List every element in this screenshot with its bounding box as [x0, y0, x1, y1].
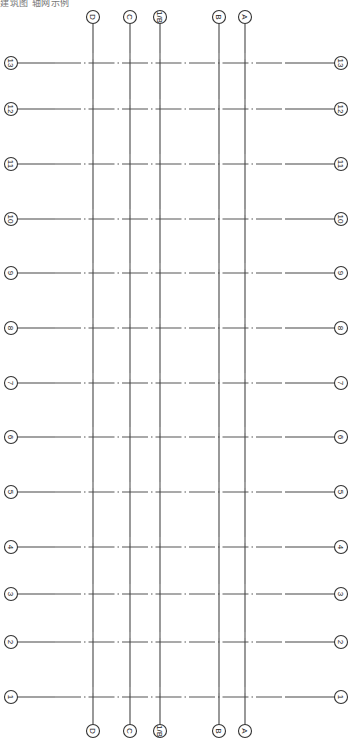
axis-grid-drawing: 1313121211111010998877665544332211DDCC1/… [0, 0, 351, 743]
svg-text:5: 5 [6, 490, 15, 495]
axis-bubble-row-11-right: 11 [335, 158, 348, 171]
svg-text:11: 11 [6, 160, 15, 169]
axis-bubble-col-B-bottom: B [213, 725, 226, 738]
axis-bubble-row-10-right: 10 [335, 213, 348, 226]
svg-text:A: A [240, 14, 249, 20]
axis-bubble-row-6-right: 6 [335, 431, 348, 444]
svg-text:6: 6 [336, 435, 345, 440]
row-axis-1: 11 [5, 691, 348, 704]
column-axis-C: CC [124, 11, 137, 738]
svg-text:C: C [125, 14, 134, 20]
axis-bubble-row-11-left: 11 [5, 158, 18, 171]
svg-text:12: 12 [6, 105, 15, 114]
axis-bubble-row-4-right: 4 [335, 541, 348, 554]
axis-bubble-row-13-right: 13 [335, 57, 348, 70]
axis-bubble-col-C-top: C [124, 11, 137, 24]
axis-bubble-col-B-top: B [213, 11, 226, 24]
svg-text:8: 8 [6, 326, 15, 331]
axis-bubble-row-12-right: 12 [335, 103, 348, 116]
axis-bubble-row-6-left: 6 [5, 431, 18, 444]
axis-bubble-row-8-right: 8 [335, 322, 348, 335]
row-axis-4: 44 [5, 541, 348, 554]
svg-text:D: D [88, 728, 97, 734]
axis-bubble-col-D-top: D [87, 11, 100, 24]
axis-bubble-col-C-bottom: C [124, 725, 137, 738]
svg-text:4: 4 [6, 545, 15, 550]
row-axis-5: 55 [5, 486, 348, 499]
svg-text:10: 10 [336, 215, 345, 224]
column-axis-B: BB [213, 11, 226, 738]
column-axis-1-B: 1/B1/B [154, 11, 167, 738]
svg-text:8: 8 [336, 326, 345, 331]
row-axis-12: 1212 [5, 103, 348, 116]
row-axis-2: 22 [5, 636, 348, 649]
svg-text:6: 6 [6, 435, 15, 440]
column-axis-D: DD [87, 11, 100, 738]
axis-bubble-row-9-right: 9 [335, 267, 348, 280]
row-axis-7: 77 [5, 377, 348, 390]
svg-text:1/B: 1/B [155, 11, 164, 23]
svg-text:1: 1 [6, 695, 15, 700]
axis-bubble-col-1-B-top: 1/B [154, 11, 167, 24]
svg-text:C: C [125, 728, 134, 734]
axis-bubble-row-7-right: 7 [335, 377, 348, 390]
axis-bubble-row-3-left: 3 [5, 588, 18, 601]
row-axis-3: 33 [5, 588, 348, 601]
svg-text:11: 11 [336, 160, 345, 169]
axis-bubble-row-9-left: 9 [5, 267, 18, 280]
svg-text:13: 13 [336, 59, 345, 68]
row-axis-8: 88 [5, 322, 348, 335]
svg-text:D: D [88, 14, 97, 20]
axis-bubble-row-1-right: 1 [335, 691, 348, 704]
axis-bubble-row-8-left: 8 [5, 322, 18, 335]
svg-text:2: 2 [6, 640, 15, 645]
row-axis-9: 99 [5, 267, 348, 280]
svg-text:A: A [240, 728, 249, 734]
svg-text:7: 7 [6, 381, 15, 386]
svg-text:2: 2 [336, 640, 345, 645]
axis-bubble-row-1-left: 1 [5, 691, 18, 704]
svg-text:10: 10 [6, 215, 15, 224]
svg-text:B: B [214, 728, 223, 733]
svg-text:9: 9 [336, 271, 345, 276]
axis-bubble-row-10-left: 10 [5, 213, 18, 226]
axis-bubble-row-3-right: 3 [335, 588, 348, 601]
axis-bubble-row-5-left: 5 [5, 486, 18, 499]
axis-bubble-row-2-right: 2 [335, 636, 348, 649]
axis-bubble-row-2-left: 2 [5, 636, 18, 649]
axis-bubble-col-A-bottom: A [239, 725, 252, 738]
svg-text:3: 3 [6, 592, 15, 597]
axis-bubble-col-A-top: A [239, 11, 252, 24]
axis-bubble-col-D-bottom: D [87, 725, 100, 738]
axis-bubble-row-5-right: 5 [335, 486, 348, 499]
row-axis-13: 1313 [5, 57, 348, 70]
svg-text:12: 12 [336, 105, 345, 114]
axis-bubble-row-13-left: 13 [5, 57, 18, 70]
row-axis-11: 1111 [5, 158, 348, 171]
svg-text:1/B: 1/B [155, 725, 164, 737]
svg-text:3: 3 [336, 592, 345, 597]
svg-text:13: 13 [6, 59, 15, 68]
svg-text:7: 7 [336, 381, 345, 386]
svg-text:4: 4 [336, 545, 345, 550]
svg-text:5: 5 [336, 490, 345, 495]
axis-bubble-col-1-B-bottom: 1/B [154, 725, 167, 738]
axis-bubble-row-7-left: 7 [5, 377, 18, 390]
axis-bubble-row-12-left: 12 [5, 103, 18, 116]
svg-text:1: 1 [336, 695, 345, 700]
axis-bubble-row-4-left: 4 [5, 541, 18, 554]
row-axis-6: 66 [5, 431, 348, 444]
row-axis-10: 1010 [5, 213, 348, 226]
column-axis-A: AA [239, 11, 252, 738]
svg-text:9: 9 [6, 271, 15, 276]
svg-text:B: B [214, 14, 223, 19]
